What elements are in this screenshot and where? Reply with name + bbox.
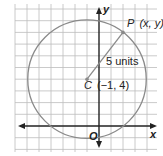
center-letter: C [84,79,92,91]
coordinate-plane-figure: y x O P (x, y) C (−1, 4) 5 units [0,0,163,156]
point-p-letter: P [127,17,135,29]
origin-label: O [89,130,98,142]
center-coords: (−1, 4) [97,79,129,91]
radius-label: 5 units [106,55,139,67]
center-label: C (−1, 4) [84,79,129,91]
point-p-coords: (x, y) [139,17,163,29]
point-p-label: P (x, y) [127,17,163,29]
y-axis-arrow-up [96,7,102,14]
point-p [121,31,125,35]
y-axis-label: y [102,3,110,15]
x-axis-label: x [149,128,157,140]
y-axis-arrow-down [96,141,102,148]
x-axis-arrow-left [18,123,25,129]
